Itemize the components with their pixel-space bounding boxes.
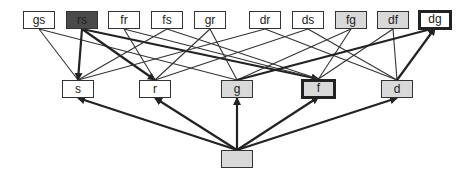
edge-ds-d	[308, 29, 397, 80]
edge-bottom-d	[237, 98, 397, 150]
node-g: g	[221, 80, 253, 98]
node-df: df	[377, 11, 409, 29]
edge-df-d	[393, 29, 397, 80]
edge-rs-s	[78, 29, 82, 80]
node-dr: dr	[249, 11, 281, 29]
edge-bottom-f	[237, 97, 319, 150]
edge-dr-s	[78, 29, 265, 80]
node-r: r	[139, 80, 171, 98]
node-s: s	[62, 80, 94, 98]
node-gr: gr	[194, 11, 226, 29]
edge-bottom-r	[155, 98, 237, 150]
node-fs: fs	[151, 11, 183, 29]
edge-fr-r	[124, 29, 155, 80]
node-rs: rs	[66, 11, 98, 29]
edge-gs-s	[39, 29, 78, 80]
node-bottom	[221, 150, 253, 168]
node-d: d	[381, 80, 413, 98]
node-ds: ds	[292, 11, 324, 29]
node-fg: fg	[335, 11, 367, 29]
node-f: f	[301, 79, 336, 99]
node-dg: dg	[418, 10, 452, 30]
node-fr: fr	[108, 11, 140, 29]
node-gs: gs	[23, 11, 55, 29]
edge-bottom-s	[78, 98, 237, 150]
